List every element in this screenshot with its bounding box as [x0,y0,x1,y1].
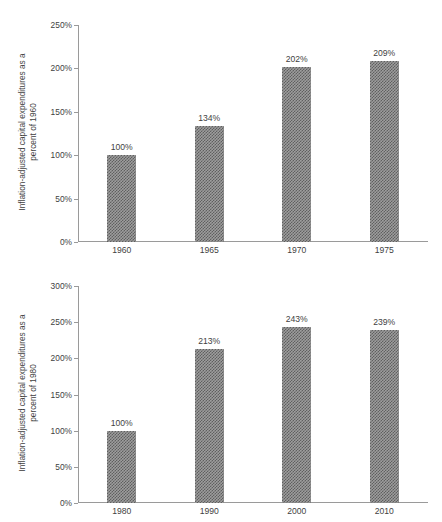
plot-area: 0%50%100%150%200%250%300% 100%213%243%23… [78,286,428,503]
y-axis-title: Inflation-adjusted capital expenditures … [10,275,46,511]
x-axis-label: 2000 [253,506,341,516]
bar: 100% [107,431,136,503]
bar-cell: 202% [253,25,341,242]
bar-cell: 134% [166,25,254,242]
bar-value-label: 213% [198,336,220,346]
bar-cell: 100% [78,286,166,503]
bar: 213% [195,349,224,503]
chart-capital-expenditures-1960: Inflation-adjusted capital expenditures … [0,0,442,261]
bar-value-label: 134% [198,113,220,123]
bar-cell: 209% [341,25,429,242]
chart-capital-expenditures-1980: Inflation-adjusted capital expenditures … [0,261,442,522]
x-axis-labels: 1980199020002010 [78,506,428,516]
bar-cell: 243% [253,286,341,503]
bar: 243% [282,327,311,503]
bar-value-label: 100% [111,142,133,152]
x-axis-label: 2010 [341,506,429,516]
x-axis-labels: 1960196519701975 [78,245,428,255]
bar: 134% [195,126,224,242]
figure-container: Inflation-adjusted capital expenditures … [0,0,442,522]
x-axis-label: 1990 [166,506,254,516]
bar: 202% [282,67,311,242]
bar-value-label: 100% [111,418,133,428]
bar: 239% [370,330,399,503]
x-axis-label: 1970 [253,245,341,255]
bar-value-label: 239% [373,317,395,327]
y-axis-tick-mark [74,242,78,243]
x-axis-label: 1980 [78,506,166,516]
y-axis-tick-mark [74,503,78,504]
y-axis-title: Inflation-adjusted capital expenditures … [10,14,46,250]
x-axis-label: 1965 [166,245,254,255]
bar-value-label: 202% [286,54,308,64]
bar-group: 100%213%243%239% [78,286,428,503]
x-axis-label: 1975 [341,245,429,255]
bar: 100% [107,155,136,242]
x-axis-label: 1960 [78,245,166,255]
bar-cell: 100% [78,25,166,242]
bar-value-label: 243% [286,314,308,324]
bar: 209% [370,61,399,242]
bar-cell: 213% [166,286,254,503]
bar-group: 100%134%202%209% [78,25,428,242]
bar-cell: 239% [341,286,429,503]
bar-value-label: 209% [373,48,395,58]
plot-area: 0%50%100%150%200%250% 100%134%202%209% [78,25,428,242]
